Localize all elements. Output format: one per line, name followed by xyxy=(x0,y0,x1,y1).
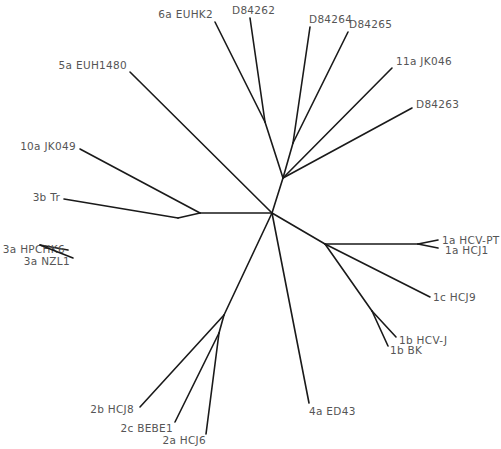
leaf-label: 11a JK046 xyxy=(396,55,452,67)
tree-branches xyxy=(178,122,418,333)
leaf-branch xyxy=(283,108,412,178)
leaf-1a-hcj1: 1a HCJ1 xyxy=(418,244,489,256)
leaf-branch xyxy=(206,333,219,434)
leaf-label: D84264 xyxy=(309,13,352,25)
leaf-label: 6a EUHK2 xyxy=(158,8,213,20)
leaf-label: 1c HCJ9 xyxy=(433,291,476,303)
leaf-label: 2b HCJ8 xyxy=(90,403,134,415)
leaf-3a-hpchk6: 3a HPCHK6 xyxy=(3,243,68,255)
leaf-label: D84262 xyxy=(232,4,275,16)
leaf-label: 10a JK049 xyxy=(20,140,76,152)
leaf-d84262: D84262 xyxy=(232,4,275,122)
leaf-label: 1b BK xyxy=(390,344,423,356)
leaf-branch xyxy=(64,199,178,218)
internal-branch xyxy=(272,178,283,213)
tree-leaves: 6a EUHK2D84262D84264D8426511a JK046D8426… xyxy=(3,4,500,446)
leaf-branch xyxy=(272,213,309,403)
leaf-label: D84265 xyxy=(349,18,392,30)
leaf-5a-euh1480: 5a EUH1480 xyxy=(59,59,272,213)
leaf-branch xyxy=(80,149,200,213)
leaf-branch xyxy=(418,244,438,248)
leaf-branch xyxy=(418,240,438,244)
leaf-1b-hcv-j: 1b HCV-J xyxy=(372,311,447,346)
leaf-6a-euhk2: 6a EUHK2 xyxy=(158,8,265,122)
internal-branch xyxy=(325,244,372,311)
leaf-label: 3a HPCHK6 xyxy=(3,243,65,255)
internal-branch xyxy=(272,213,325,244)
phylogenetic-tree: 6a EUHK2D84262D84264D8426511a JK046D8426… xyxy=(0,0,501,449)
leaf-2c-bebe1: 2c BEBE1 xyxy=(120,333,219,434)
leaf-branch xyxy=(175,333,219,422)
leaf-11a-jk046: 11a JK046 xyxy=(283,55,452,178)
leaf-branch xyxy=(372,311,396,337)
leaf-label: 3a NZL1 xyxy=(24,255,70,267)
internal-branch xyxy=(178,213,200,218)
leaf-branch xyxy=(283,68,392,178)
leaf-label: 2c BEBE1 xyxy=(120,422,173,434)
leaf-label: 4a ED43 xyxy=(309,405,356,417)
leaf-label: 5a EUH1480 xyxy=(59,59,127,71)
leaf-branch xyxy=(325,244,430,297)
internal-branch xyxy=(224,213,272,315)
leaf-label: 1a HCJ1 xyxy=(445,244,489,256)
leaf-3b-tr: 3b Tr xyxy=(33,191,178,218)
leaf-branch xyxy=(372,311,388,346)
leaf-label: 3b Tr xyxy=(33,191,61,203)
internal-branch xyxy=(265,122,283,178)
leaf-label: D84263 xyxy=(416,98,459,110)
leaf-label: 2a HCJ6 xyxy=(162,434,206,446)
